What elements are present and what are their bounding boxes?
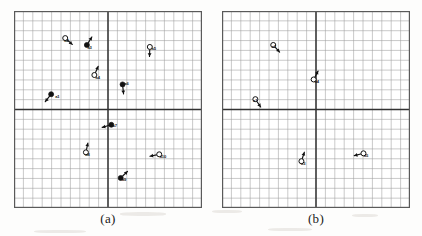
panel-a: a1a2a3a4a5a6a7a8a9a10: [14, 11, 202, 208]
panel-b: a1a2a3a4a5: [222, 11, 410, 208]
panel-a-caption: (a): [14, 211, 202, 227]
panel-b-plot: a1a2a3a4a5: [222, 11, 410, 208]
scan-artifact: [34, 230, 86, 233]
scan-artifact: [268, 228, 312, 231]
agent-label: a10: [160, 154, 167, 159]
panel-b-caption: (b): [222, 211, 410, 227]
panel-a-plot: a1a2a3a4a5a6a7a8a9a10: [14, 11, 202, 208]
figure-root: a1a2a3a4a5a6a7a8a9a10 (a) a1a2a3a4a5 (b): [0, 0, 422, 236]
